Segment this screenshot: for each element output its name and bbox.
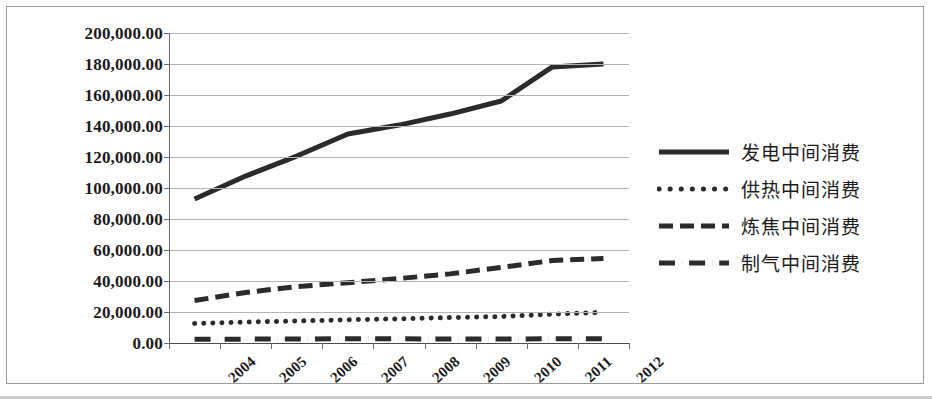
legend-label: 发电中间消费 (731, 138, 861, 165)
y-axis-tick (164, 312, 170, 313)
y-axis-tick (164, 33, 170, 34)
legend-item[interactable]: 发电中间消费 (657, 133, 915, 170)
gridline (169, 95, 629, 96)
legend-item[interactable]: 制气中间消费 (657, 244, 915, 281)
legend-item[interactable]: 炼焦中间消费 (657, 207, 915, 244)
y-axis-tick-label: 200,000.00 (15, 25, 163, 42)
chart-axes (169, 33, 629, 343)
x-axis-labels: 200420052006200720082009201020112012 (169, 347, 669, 397)
legend-line-swatch (657, 182, 731, 196)
x-axis-tick-label: 2005 (276, 353, 311, 387)
x-axis-tick-label: 2010 (531, 353, 566, 387)
chart-plot-area: 0.0020,000.0040,000.0060,000.0080,000.00… (7, 7, 925, 385)
x-axis-tick-label: 2009 (480, 353, 515, 387)
chart-frame: 0.0020,000.0040,000.0060,000.0080,000.00… (6, 6, 924, 384)
gridline (169, 126, 629, 127)
legend-line-swatch (657, 256, 731, 270)
gridline (169, 219, 629, 220)
series-line (195, 312, 604, 323)
y-axis-tick (164, 95, 170, 96)
gridline (169, 33, 629, 34)
y-axis-tick-label: 60,000.00 (15, 242, 163, 259)
y-axis-labels: 0.0020,000.0040,000.0060,000.0080,000.00… (15, 7, 163, 385)
y-axis-tick-label: 120,000.00 (15, 149, 163, 166)
y-axis-tick (164, 250, 170, 251)
x-axis-tick-label: 2004 (225, 353, 260, 387)
y-axis-tick-label: 80,000.00 (15, 211, 163, 228)
x-axis-tick-label: 2006 (327, 353, 362, 387)
x-axis-tick-label: 2011 (582, 353, 616, 386)
y-axis-tick (164, 219, 170, 220)
legend-label: 炼焦中间消费 (731, 212, 861, 239)
y-axis-tick (164, 64, 170, 65)
x-axis-tick-label: 2012 (633, 353, 668, 387)
y-axis-tick-label: 140,000.00 (15, 118, 163, 135)
series-line (195, 259, 604, 301)
gridline (169, 312, 629, 313)
y-axis-tick-label: 40,000.00 (15, 273, 163, 290)
y-axis-tick-label: 180,000.00 (15, 56, 163, 73)
y-axis-tick-label: 100,000.00 (15, 180, 163, 197)
x-axis-tick-label: 2007 (378, 353, 413, 387)
y-axis-tick (164, 157, 170, 158)
legend-line-swatch (657, 145, 731, 159)
x-axis-tick-label: 2008 (429, 353, 464, 387)
legend-item[interactable]: 供热中间消费 (657, 170, 915, 207)
y-axis-tick (164, 188, 170, 189)
legend-label: 供热中间消费 (731, 175, 861, 202)
y-axis-tick-label: 160,000.00 (15, 87, 163, 104)
gridline (169, 343, 629, 344)
y-axis-tick-label: 20,000.00 (15, 304, 163, 321)
gridline (169, 64, 629, 65)
page-edge (0, 396, 932, 399)
legend-line-swatch (657, 219, 731, 233)
series-line (195, 64, 604, 199)
gridline (169, 250, 629, 251)
gridline (169, 188, 629, 189)
y-axis-tick-label: 0.00 (15, 335, 163, 352)
gridline (169, 157, 629, 158)
y-axis-tick (164, 281, 170, 282)
chart-legend: 发电中间消费供热中间消费炼焦中间消费制气中间消费 (657, 133, 915, 281)
y-axis-tick (164, 126, 170, 127)
legend-label: 制气中间消费 (731, 249, 861, 276)
gridline (169, 281, 629, 282)
